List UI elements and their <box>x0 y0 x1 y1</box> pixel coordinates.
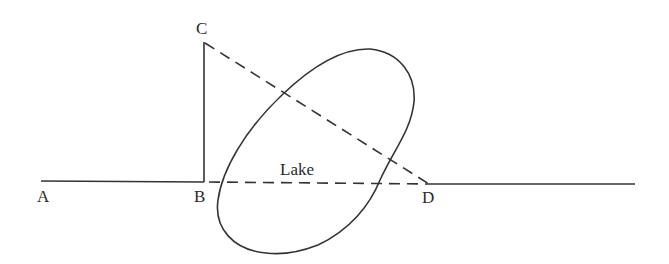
label-b: B <box>194 188 205 205</box>
label-d: D <box>422 189 434 206</box>
segment-bd <box>209 182 429 184</box>
lake-ellipse <box>217 49 414 254</box>
lake-diagram <box>0 0 669 264</box>
segment-ab <box>41 181 204 182</box>
label-a: A <box>37 188 49 205</box>
label-lake: Lake <box>280 161 314 178</box>
label-c: C <box>196 20 207 37</box>
segment-cd <box>205 43 429 184</box>
